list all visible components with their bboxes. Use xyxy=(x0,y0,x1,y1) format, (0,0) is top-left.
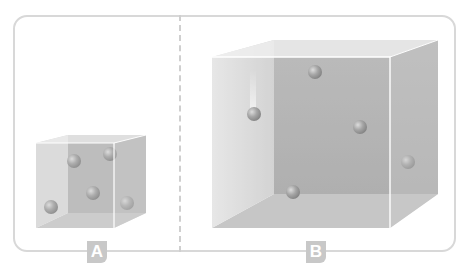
container-b xyxy=(212,40,438,228)
panel-label-a: A xyxy=(87,241,107,263)
container-a xyxy=(36,135,146,228)
panel-label-b: B xyxy=(306,241,326,263)
diagram-canvas xyxy=(0,0,466,275)
